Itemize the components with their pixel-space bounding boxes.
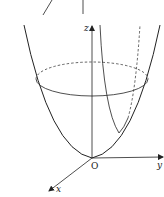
y-axis-label: y — [156, 160, 163, 170]
paraboloid-diagram: z y x O — [0, 0, 164, 197]
z-axis-label: z — [83, 23, 89, 33]
x-axis-label: x — [56, 184, 61, 194]
top-fragment-slanted-line — [43, 0, 52, 15]
inner-parabola-dashed — [128, 25, 140, 118]
origin-label: O — [91, 161, 98, 171]
y-axis — [92, 157, 163, 158]
inner-parabola-solid — [100, 25, 128, 133]
